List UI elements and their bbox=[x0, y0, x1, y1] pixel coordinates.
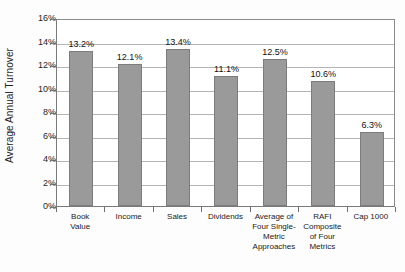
bar-value-label: 13.2% bbox=[68, 40, 94, 49]
x-category-label-line: Average of bbox=[250, 212, 298, 222]
bar[interactable] bbox=[214, 76, 238, 206]
x-tick-mark bbox=[395, 207, 396, 212]
x-category-label: Average ofFour Single-MetricApproaches bbox=[250, 212, 298, 252]
bar-column: 13.2% bbox=[57, 20, 105, 206]
plot-area: 13.2%12.1%13.4%11.1%12.5%10.6%6.3% bbox=[56, 19, 395, 207]
x-category-label-line: Sales bbox=[153, 212, 201, 222]
x-category-label-line: Four Single- bbox=[250, 222, 298, 232]
bar-column: 11.1% bbox=[202, 20, 250, 206]
bar-column: 10.6% bbox=[299, 20, 347, 206]
bar[interactable] bbox=[360, 132, 384, 206]
bar-value-label: 10.6% bbox=[311, 70, 337, 79]
x-category-label: RAFICompositeof FourMetrics bbox=[298, 212, 346, 252]
bar-column: 13.4% bbox=[154, 20, 202, 206]
x-category-label-line: of Four bbox=[298, 232, 346, 242]
x-category-label-line: Metric bbox=[250, 232, 298, 242]
x-category-label-line: Cap 1000 bbox=[347, 212, 395, 222]
x-category-label-line: Metrics bbox=[298, 242, 346, 252]
y-axis-ticks: 0%2%4%6%8%10%12%14%16% bbox=[20, 0, 56, 272]
bar-column: 12.1% bbox=[105, 20, 153, 206]
bar-value-label: 11.1% bbox=[214, 65, 239, 74]
x-category-label-line: Composite bbox=[298, 222, 346, 232]
bar-chart: Average Annual Turnover 0%2%4%6%8%10%12%… bbox=[0, 0, 405, 272]
x-category-label-line: Approaches bbox=[250, 242, 298, 252]
bar[interactable] bbox=[263, 59, 287, 206]
bar[interactable] bbox=[69, 51, 93, 206]
y-axis-title: Average Annual Turnover bbox=[0, 0, 18, 210]
x-category-label-line: Dividends bbox=[201, 212, 249, 222]
bar-value-label: 12.1% bbox=[117, 53, 143, 62]
bar[interactable] bbox=[166, 49, 190, 206]
bar-value-label: 6.3% bbox=[362, 121, 383, 130]
x-category-label: BookValue bbox=[56, 212, 104, 232]
x-category-label-line: Value bbox=[56, 222, 104, 232]
x-axis-labels: BookValueIncomeSalesDividendsAverage ofF… bbox=[56, 212, 395, 272]
x-category-label: Sales bbox=[153, 212, 201, 222]
bar-value-label: 13.4% bbox=[165, 38, 191, 47]
bar[interactable] bbox=[311, 81, 335, 206]
x-category-label: Dividends bbox=[201, 212, 249, 222]
x-category-label: Cap 1000 bbox=[347, 212, 395, 222]
bar[interactable] bbox=[118, 64, 142, 206]
y-axis-title-text: Average Annual Turnover bbox=[4, 48, 15, 163]
x-category-label-line: Book bbox=[56, 212, 104, 222]
x-category-label: Income bbox=[104, 212, 152, 222]
bar-column: 6.3% bbox=[348, 20, 396, 206]
x-category-label-line: RAFI bbox=[298, 212, 346, 222]
bar-column: 12.5% bbox=[251, 20, 299, 206]
x-category-label-line: Income bbox=[104, 212, 152, 222]
bar-value-label: 12.5% bbox=[262, 48, 288, 57]
